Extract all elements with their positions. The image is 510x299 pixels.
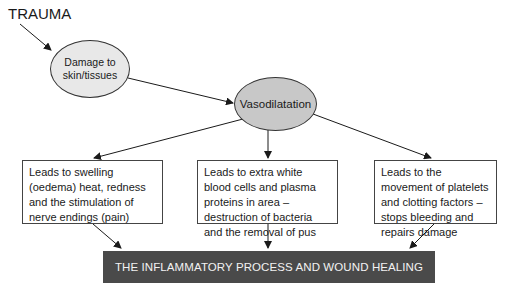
- arrow-damage-to-vasodilatation: [128, 78, 233, 103]
- damage-node: Damage to skin/tissues: [50, 40, 130, 98]
- effect-box-platelets: Leads to the movement of platelets and c…: [374, 160, 497, 224]
- effect-box-swelling: Leads to swelling (oedema) heat, redness…: [22, 160, 163, 224]
- effect-box-white-blood-cells: Leads to extra white blood cells and pla…: [197, 160, 338, 224]
- arrow-swelling-to-outcome: [93, 224, 121, 248]
- outcome-label: THE INFLAMMATORY PROCESS AND WOUND HEALI…: [115, 261, 423, 273]
- arrow-vaso-to-swelling: [94, 119, 243, 158]
- arrow-trauma-to-damage: [20, 24, 51, 50]
- damage-line-2: skin/tissues: [63, 69, 117, 82]
- trauma-label: TRAUMA: [8, 5, 71, 22]
- vasodilatation-label: Vasodilatation: [240, 98, 311, 110]
- vasodilatation-node: Vasodilatation: [234, 77, 317, 131]
- damage-line-1: Damage to: [63, 56, 117, 69]
- outcome-banner: THE INFLAMMATORY PROCESS AND WOUND HEALI…: [103, 251, 435, 283]
- arrow-vaso-to-platelets: [305, 111, 431, 158]
